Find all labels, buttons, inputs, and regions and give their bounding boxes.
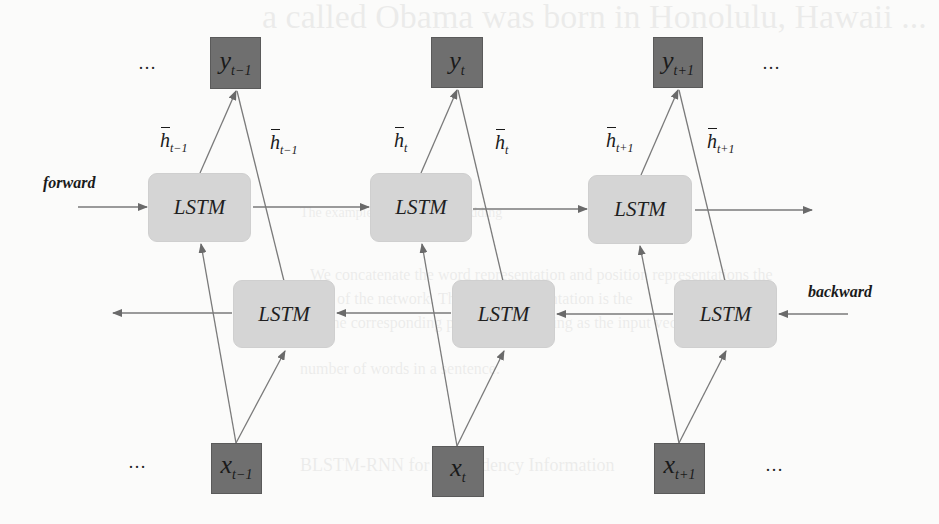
ellipsis-top-left: … bbox=[138, 53, 158, 74]
hidden-label-forward-t-plus-1: ht+1 bbox=[606, 130, 633, 154]
lstm-label: LSTM bbox=[478, 302, 529, 327]
output-node-y-t-plus-1: yt+1 bbox=[653, 37, 703, 88]
lstm-label: LSTM bbox=[395, 195, 446, 220]
forward-lstm-cell-1: LSTM bbox=[148, 173, 251, 242]
hidden-label-backward-t: ht bbox=[495, 132, 508, 156]
backward-lstm-cell-1: LSTM bbox=[233, 280, 335, 348]
output-label: y bbox=[449, 46, 461, 75]
ellipsis-bottom-right: … bbox=[765, 455, 785, 476]
output-label: y bbox=[220, 46, 232, 75]
output-node-y-t-minus-1: yt−1 bbox=[210, 37, 261, 89]
input-label: x bbox=[664, 450, 676, 479]
lstm-label: LSTM bbox=[700, 302, 751, 327]
input-node-x-t-plus-1: xt+1 bbox=[654, 443, 705, 494]
input-label: x bbox=[450, 453, 462, 482]
hidden-label-forward-t-minus-1: ht−1 bbox=[160, 130, 187, 154]
backward-lstm-cell-2: LSTM bbox=[452, 280, 555, 348]
backward-lstm-cell-3: LSTM bbox=[674, 280, 777, 348]
forward-lstm-cell-3: LSTM bbox=[588, 175, 692, 244]
lstm-label: LSTM bbox=[614, 197, 665, 222]
ellipsis-bottom-left: … bbox=[128, 452, 148, 473]
forward-lstm-cell-2: LSTM bbox=[370, 173, 472, 242]
lstm-label: LSTM bbox=[174, 195, 225, 220]
hidden-label-backward-t-plus-1: ht+1 bbox=[707, 131, 734, 155]
input-label: x bbox=[221, 450, 233, 479]
ellipsis-top-right: … bbox=[762, 53, 782, 74]
lstm-label: LSTM bbox=[258, 302, 309, 327]
backward-label: backward bbox=[808, 283, 872, 301]
hidden-label-forward-t: ht bbox=[394, 130, 407, 154]
output-label: y bbox=[662, 46, 674, 75]
input-node-x-t: xt bbox=[432, 446, 484, 497]
input-node-x-t-minus-1: xt−1 bbox=[211, 443, 262, 494]
forward-label: forward bbox=[43, 174, 95, 192]
hidden-label-backward-t-minus-1: ht−1 bbox=[270, 132, 297, 156]
output-node-y-t: yt bbox=[431, 37, 483, 88]
